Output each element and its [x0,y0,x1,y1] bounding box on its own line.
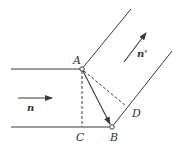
label-A: A [72,54,81,67]
point-A [80,67,84,71]
upper-refracted-boundary [84,9,132,67]
label-D: D [131,107,141,120]
lower-refracted-boundary [114,51,173,125]
refraction-diagram: A B C D n n' [0,0,184,153]
label-C: C [76,131,85,144]
label-n: n [27,102,34,113]
arrow-AB [83,71,110,124]
label-B: B [109,131,118,144]
point-B [110,125,114,129]
label-n-prime: n' [137,48,147,59]
dashed-line-AD [84,71,126,106]
